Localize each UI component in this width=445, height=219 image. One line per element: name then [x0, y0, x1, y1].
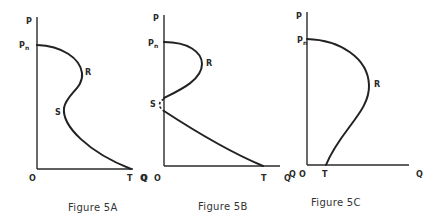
figure-5a: P Pn R S O T Q Figure 5A [19, 17, 147, 213]
s-label: S [150, 100, 156, 109]
figure-canvas: P Pn R S O T Q Figure 5A P Pn R S Q O T … [0, 0, 445, 219]
pn-label: Pn [148, 39, 158, 49]
t-label: T [322, 170, 328, 179]
p-axis-label: P [296, 12, 302, 21]
caption-5a: Figure 5A [68, 202, 118, 213]
origin-label: O [299, 170, 306, 179]
r-label: R [85, 68, 91, 77]
caption-5c: Figure 5C [311, 197, 361, 208]
figure-5b: P Pn R S Q O T Q Figure 5B [141, 14, 291, 212]
p-axis-label: P [153, 14, 159, 23]
stray-q-label: Q [289, 170, 296, 179]
t-label: T [261, 174, 267, 183]
r-label: R [374, 80, 380, 89]
t-label: T [127, 174, 133, 183]
stray-q-label: Q [141, 174, 148, 183]
origin-label: O [154, 174, 161, 183]
origin-label: O [29, 174, 36, 183]
pn-label: Pn [297, 36, 307, 46]
figure-5c: P Pn R Q O T Q Figure 5C [289, 12, 423, 208]
caption-5b: Figure 5B [198, 201, 248, 212]
s-label: S [55, 108, 61, 117]
r-label: R [206, 59, 212, 68]
pn-label: Pn [19, 41, 29, 51]
curve-pn-r-s [164, 42, 202, 98]
curve-pn-r-s-t [37, 45, 131, 169]
curve-s-t [164, 111, 263, 166]
q-axis-label: Q [416, 170, 423, 179]
p-axis-label: P [26, 17, 32, 26]
curve-pn-r-t [307, 39, 369, 165]
